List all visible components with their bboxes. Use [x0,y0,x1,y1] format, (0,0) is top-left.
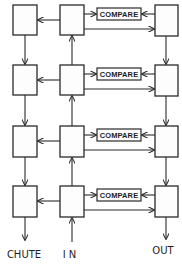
in-cell-4 [60,186,84,217]
sorting-network-diagram: COMPARE COMPARE COMPARE [0,0,182,264]
chute-cell-2 [13,65,37,95]
stage-1: COMPARE [13,5,178,36]
out-cell-1 [155,5,178,36]
stage-4: COMPARE [13,186,178,217]
out-cell-4 [155,186,178,217]
in-cell-1 [60,5,84,35]
chute-cell-1 [13,5,37,35]
chute-cell-4 [13,186,37,217]
out-cell-2 [155,65,178,96]
in-cell-2 [60,65,84,95]
chute-cell-3 [13,126,37,157]
in-label: IN [63,249,79,260]
in-cell-3 [60,126,84,157]
compare-label-1: COMPARE [100,10,138,19]
out-cell-3 [155,126,178,157]
stage-3: COMPARE [13,126,178,157]
compare-label-3: COMPARE [100,131,138,140]
compare-label-4: COMPARE [100,191,138,200]
compare-label-2: COMPARE [100,70,138,79]
stage-2: COMPARE [13,65,178,96]
out-label: OUT [152,245,174,256]
chute-label: CHUTE [7,249,41,260]
